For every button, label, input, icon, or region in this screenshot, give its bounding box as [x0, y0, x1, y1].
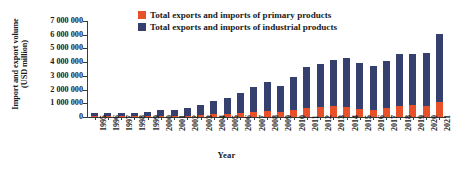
- x-axis-tick: [174, 117, 175, 120]
- bar-stack[interactable]: [330, 60, 337, 117]
- x-axis-tick: [254, 117, 255, 120]
- bar-stack[interactable]: [370, 66, 377, 117]
- y-axis-tick: [83, 117, 88, 118]
- bar-segment-industrial[interactable]: [224, 98, 231, 114]
- x-axis-tick: [134, 117, 135, 120]
- bar-segment-industrial[interactable]: [330, 60, 337, 106]
- x-axis-tick-label: 2020: [430, 122, 439, 131]
- bar-stack[interactable]: [317, 64, 324, 117]
- x-axis-tick: [413, 117, 414, 120]
- bar-segment-industrial[interactable]: [317, 64, 324, 107]
- x-axis-tick-label: 2008: [271, 122, 280, 131]
- x-axis-tick: [267, 117, 268, 120]
- bar-segment-industrial[interactable]: [423, 53, 430, 106]
- legend-swatch-primary-icon: [138, 11, 146, 19]
- bar-stack[interactable]: [277, 86, 284, 117]
- bar-segment-industrial[interactable]: [383, 61, 390, 108]
- x-axis-tick-label: 2004: [218, 122, 227, 131]
- bar-stack[interactable]: [264, 82, 271, 117]
- x-axis-tick-label: 2003: [205, 122, 214, 131]
- x-axis-tick-label: 2019: [417, 122, 426, 131]
- y-axis-tick-label: 3 000 000: [0, 72, 83, 80]
- bar-segment-industrial[interactable]: [277, 86, 284, 112]
- x-axis-tick: [187, 117, 188, 120]
- bar-segment-industrial[interactable]: [210, 101, 217, 114]
- x-axis-tick-label: 1998: [138, 122, 147, 131]
- bar-segment-industrial[interactable]: [237, 93, 244, 113]
- bar-segment-industrial[interactable]: [303, 67, 310, 107]
- x-axis-tick-label: 2005: [231, 122, 240, 131]
- y-axis-tick-label: 6 000 000: [0, 31, 83, 39]
- bar-segment-industrial[interactable]: [264, 82, 271, 111]
- x-axis-tick: [347, 117, 348, 120]
- y-axis-tick: [83, 35, 88, 36]
- legend-item-primary-products: Total exports and imports of primary pro…: [138, 9, 337, 20]
- y-axis-tick-label: 1 000 000: [0, 99, 83, 107]
- bar-stack[interactable]: [383, 61, 390, 117]
- y-axis-tick: [83, 48, 88, 49]
- bar-stack[interactable]: [436, 34, 443, 117]
- x-axis-tick: [333, 117, 334, 120]
- x-axis-tick: [95, 117, 96, 120]
- x-axis-tick: [214, 117, 215, 120]
- bar-stack[interactable]: [423, 53, 430, 117]
- x-axis-tick: [121, 117, 122, 120]
- x-axis-tick: [307, 117, 308, 120]
- bar-segment-industrial[interactable]: [250, 87, 257, 112]
- y-axis-tick: [83, 90, 88, 91]
- bar-segment-industrial[interactable]: [370, 66, 377, 109]
- y-axis-tick-label: 2 000 000: [0, 86, 83, 94]
- bar-stack[interactable]: [237, 93, 244, 117]
- x-axis-tick: [280, 117, 281, 120]
- x-axis-tick-label: 2011: [311, 122, 320, 131]
- y-axis-tick-label: 4 000 000: [0, 58, 83, 66]
- x-axis-tick-label: 2001: [178, 122, 187, 131]
- x-axis-tick-label: 2015: [364, 122, 373, 131]
- x-axis-tick: [161, 117, 162, 120]
- bar-stack[interactable]: [250, 87, 257, 117]
- x-axis-tick-label: 2010: [298, 122, 307, 131]
- bar-segment-industrial[interactable]: [197, 105, 204, 115]
- x-axis-tick: [400, 117, 401, 120]
- x-axis-tick-label: 2000: [165, 122, 174, 131]
- y-axis-tick-label: 5 000 000: [0, 44, 83, 52]
- bar-segment-industrial[interactable]: [396, 54, 403, 106]
- bar-stack[interactable]: [303, 67, 310, 117]
- x-axis-tick: [240, 117, 241, 120]
- bar-stack[interactable]: [409, 54, 416, 117]
- bar-segment-industrial[interactable]: [409, 54, 416, 105]
- x-axis-tick-label: 2017: [390, 122, 399, 131]
- x-axis-tick: [227, 117, 228, 120]
- x-axis-tick-label: 2009: [284, 122, 293, 131]
- x-axis-tick: [320, 117, 321, 120]
- bar-stack[interactable]: [290, 77, 297, 117]
- x-axis-tick-label: 2014: [351, 122, 360, 131]
- bar-stack[interactable]: [343, 58, 350, 117]
- y-axis-tick-label: 0: [0, 113, 83, 121]
- x-axis-tick: [148, 117, 149, 120]
- legend-label-primary: Total exports and imports of primary pro…: [150, 10, 331, 20]
- x-axis-tick: [373, 117, 374, 120]
- x-axis-tick: [360, 117, 361, 120]
- bar-chart: Import and export volume (USD million) T…: [0, 0, 453, 170]
- y-axis-tick: [83, 103, 88, 104]
- bar-segment-industrial[interactable]: [343, 58, 350, 106]
- y-axis-tick-label: 7 000 000: [0, 17, 83, 25]
- bar-stack[interactable]: [356, 63, 363, 117]
- x-axis-tick: [386, 117, 387, 120]
- x-axis-tick-label: 2007: [258, 122, 267, 131]
- x-axis-tick-label: 1999: [152, 122, 161, 131]
- x-axis-tick: [426, 117, 427, 120]
- bar-segment-industrial[interactable]: [356, 63, 363, 110]
- x-axis-tick-label: 1995: [99, 122, 108, 131]
- x-axis-tick: [439, 117, 440, 120]
- y-axis-tick: [83, 62, 88, 63]
- y-axis-tick: [83, 21, 88, 22]
- bar-segment-industrial[interactable]: [436, 34, 443, 103]
- x-axis-tick-label: 2012: [324, 122, 333, 131]
- x-axis-tick-label: 2002: [191, 122, 200, 131]
- bar-stack[interactable]: [396, 54, 403, 117]
- x-axis-tick-label: 2013: [337, 122, 346, 131]
- bar-segment-industrial[interactable]: [290, 77, 297, 110]
- x-axis-tick: [201, 117, 202, 120]
